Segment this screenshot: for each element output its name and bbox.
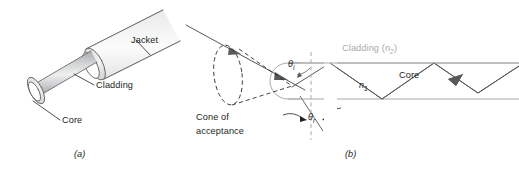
label-core-index: n1 [359, 80, 368, 92]
label-cladding-b-text: Cladding (n [342, 43, 390, 53]
label-cone-of-acceptance-line2: acceptance [196, 126, 244, 136]
label-theta-r: θr [308, 112, 315, 124]
label-cladding-a: Cladding [96, 80, 133, 90]
caption-a: (a) [74, 149, 85, 159]
figure-optical-fiber: Jacket Cladding Core (a) Cladding (n2) C… [0, 0, 519, 172]
label-core-b: Core [399, 70, 419, 80]
label-cladding-b: Cladding (n2) [342, 43, 397, 55]
theta-r-subscript: r [313, 117, 315, 124]
label-jacket: Jacket [131, 35, 158, 45]
panel-b-overlay [0, 0, 519, 172]
label-cladding-b-close: ) [394, 43, 397, 53]
caption-b: (b) [345, 149, 356, 159]
label-theta-i: θi [288, 59, 294, 71]
core-index-subscript: 1 [364, 85, 368, 92]
theta-i-subscript: i [293, 64, 294, 71]
label-core-a: Core [62, 115, 82, 125]
label-cone-of-acceptance-line1: Cone of [196, 112, 229, 122]
